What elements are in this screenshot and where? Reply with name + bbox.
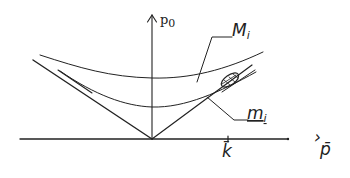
light-cone-right [152, 65, 252, 139]
horizontal-axis-label: p̄ [319, 139, 331, 159]
diagram-canvas: p0 Mi mi k̄ › p̄ [0, 0, 350, 178]
light-cone-left-outer [33, 60, 152, 139]
lower-curve-label: mi [247, 103, 267, 125]
leader-M [197, 37, 232, 82]
vertical-axis-label: p0 [160, 12, 175, 30]
leader-m [207, 97, 248, 120]
k-bar-label: k̄ [222, 140, 233, 161]
upper-curve-label: Mi [232, 20, 250, 42]
